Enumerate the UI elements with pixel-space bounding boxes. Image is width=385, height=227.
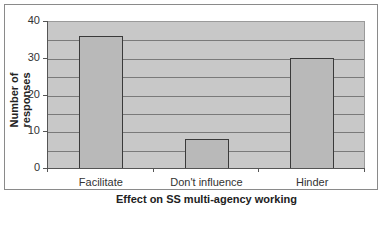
x-axis-line xyxy=(47,168,365,169)
x-category-label: Facilitate xyxy=(46,176,156,188)
y-tick-label: 40 xyxy=(20,14,40,26)
y-tick xyxy=(43,21,48,22)
x-category-label: Hinder xyxy=(257,176,367,188)
y-tick xyxy=(43,95,48,96)
y-tick xyxy=(43,131,48,132)
bar-facilitate xyxy=(79,36,123,168)
x-tick xyxy=(258,168,259,172)
plot-area xyxy=(48,21,365,168)
bar-hinder xyxy=(290,58,334,168)
y-tick xyxy=(43,58,48,59)
x-tick xyxy=(47,168,48,172)
y-tick-label: 0 xyxy=(20,161,40,173)
x-axis-title: Effect on SS multi-agency working xyxy=(48,193,365,205)
x-tick xyxy=(364,168,365,172)
y-axis-title: Number of responses xyxy=(8,45,32,155)
x-tick xyxy=(153,168,154,172)
x-category-label: Don't influence xyxy=(152,176,262,188)
bar-don-t-influence xyxy=(185,139,229,168)
